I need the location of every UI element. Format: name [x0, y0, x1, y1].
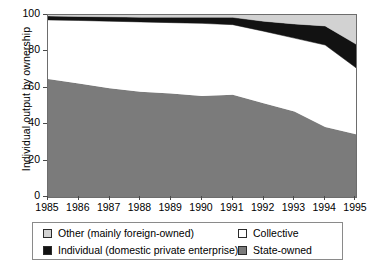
y-tick-label: 0 — [14, 190, 40, 200]
legend-label: State-owned — [253, 245, 312, 256]
y-axis: 020406080100 — [0, 0, 47, 210]
y-tick-label: 80 — [14, 44, 40, 54]
x-tick-mark — [263, 196, 264, 200]
legend-label: Individual (domestic private enterprise) — [58, 245, 238, 256]
y-tick-mark — [43, 50, 47, 51]
y-tick-mark — [43, 196, 47, 197]
x-tick-label: 1988 — [122, 201, 156, 213]
x-tick-mark — [232, 196, 233, 200]
x-tick-mark — [139, 196, 140, 200]
x-tick-mark — [78, 196, 79, 200]
legend-swatch-icon — [43, 246, 52, 255]
x-tick-label: 1986 — [61, 201, 95, 213]
legend-swatch-icon — [238, 229, 247, 238]
x-tick-label: 1991 — [215, 201, 249, 213]
legend-swatch-icon — [43, 229, 52, 238]
x-tick-label: 1994 — [307, 201, 341, 213]
x-tick-mark — [170, 196, 171, 200]
x-tick-label: 1990 — [184, 201, 218, 213]
y-tick-label: 60 — [14, 81, 40, 91]
x-tick-mark — [324, 196, 325, 200]
legend-label: Other (mainly foreign-owned) — [58, 228, 194, 239]
chart-legend: Other (mainly foreign-owned)CollectiveIn… — [32, 222, 343, 260]
y-tick-label: 100 — [14, 8, 40, 18]
x-tick-label: 1985 — [30, 201, 64, 213]
x-tick-label: 1992 — [246, 201, 280, 213]
x-tick-mark — [201, 196, 202, 200]
stacked-area-svg — [48, 15, 356, 197]
x-tick-label: 1987 — [92, 201, 126, 213]
chart-figure: Individual output by ownership 020406080… — [0, 0, 375, 268]
legend-item[interactable]: Individual (domestic private enterprise) — [43, 242, 238, 259]
x-tick-mark — [354, 196, 355, 200]
y-tick-mark — [43, 87, 47, 88]
x-tick-mark — [109, 196, 110, 200]
x-tick-mark — [293, 196, 294, 200]
plot-area — [47, 14, 357, 198]
legend-item[interactable]: Other (mainly foreign-owned) — [43, 225, 194, 242]
x-tick-mark — [47, 196, 48, 200]
x-tick-label: 1995 — [338, 201, 372, 213]
x-tick-label: 1993 — [276, 201, 310, 213]
y-tick-mark — [43, 14, 47, 15]
y-tick-mark — [43, 160, 47, 161]
x-tick-label: 1989 — [153, 201, 187, 213]
legend-item[interactable]: State-owned — [238, 242, 312, 259]
legend-item[interactable]: Collective — [238, 225, 299, 242]
legend-swatch-icon — [238, 246, 247, 255]
y-tick-label: 40 — [14, 117, 40, 127]
y-tick-label: 20 — [14, 154, 40, 164]
legend-label: Collective — [253, 228, 299, 239]
y-tick-mark — [43, 123, 47, 124]
